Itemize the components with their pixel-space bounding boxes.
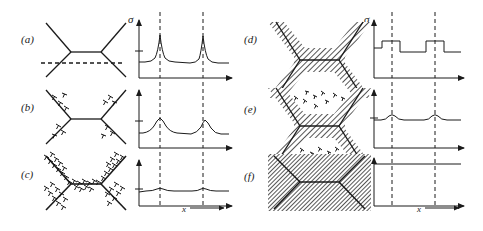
dislocation-marks-c — [44, 152, 125, 210]
panel-e-microstructure — [268, 88, 371, 164]
plot-d-x-axis — [374, 44, 464, 78]
plot-b-curve — [139, 118, 229, 134]
panel-f-microstructure — [268, 154, 371, 211]
plot-e-x-axis — [374, 114, 464, 148]
plot-d-curve — [374, 41, 461, 52]
plot-a — [135, 12, 232, 78]
figure-root: (a) (b) (c) (d) (e) (f) σ σ x x — [0, 0, 483, 231]
dislocation-marks-b — [52, 93, 117, 139]
plot-f-x-axis — [374, 184, 464, 206]
plot-d — [374, 12, 464, 78]
panel-c-microstructure — [44, 152, 126, 210]
panel-a-microstructure — [41, 23, 126, 77]
figure-canvas — [0, 0, 483, 231]
plot-e — [370, 82, 464, 148]
panel-d-microstructure — [268, 22, 371, 98]
plot-e-curve — [374, 115, 461, 120]
panel-b-microstructure — [46, 90, 126, 144]
plot-a-x-axis — [139, 44, 232, 78]
plot-c — [135, 152, 232, 208]
plot-b — [135, 82, 232, 148]
plot-c-curve — [139, 188, 229, 192]
plot-f — [374, 152, 464, 208]
plot-c-x-axis — [139, 184, 232, 206]
plot-b-x-axis — [139, 114, 232, 148]
plot-a-curve — [139, 35, 229, 63]
